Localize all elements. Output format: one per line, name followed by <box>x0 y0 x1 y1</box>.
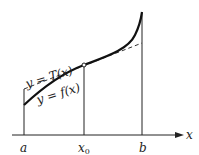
x-axis-label: x <box>186 128 193 142</box>
tangent-point <box>82 63 86 67</box>
tick-label-x0: x0 <box>78 141 90 155</box>
x-axis-arrow-icon <box>175 132 184 138</box>
tick-label-b: b <box>139 141 147 155</box>
tangent-diagram: x y = T(x) y = f(x) a x0 b <box>0 0 199 155</box>
tick-label-a: a <box>20 141 27 155</box>
